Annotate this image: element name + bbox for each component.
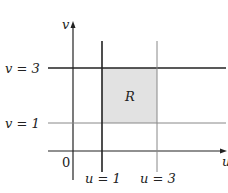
label-v1: v = 1 bbox=[5, 116, 40, 131]
label-v3: v = 3 bbox=[5, 61, 40, 76]
u-axis-arrow-icon bbox=[220, 149, 227, 154]
label-u3: u = 3 bbox=[140, 171, 176, 186]
v-axis-label: v bbox=[62, 17, 70, 32]
v-axis-arrow-icon bbox=[71, 21, 76, 28]
u-axis-label: u bbox=[222, 154, 228, 169]
region-label: R bbox=[124, 89, 135, 104]
label-u1: u = 1 bbox=[85, 171, 121, 186]
uv-region-diagram: v u 0 v = 3 v = 1 u = 1 u = 3 R bbox=[0, 0, 228, 193]
origin-label: 0 bbox=[62, 155, 70, 170]
